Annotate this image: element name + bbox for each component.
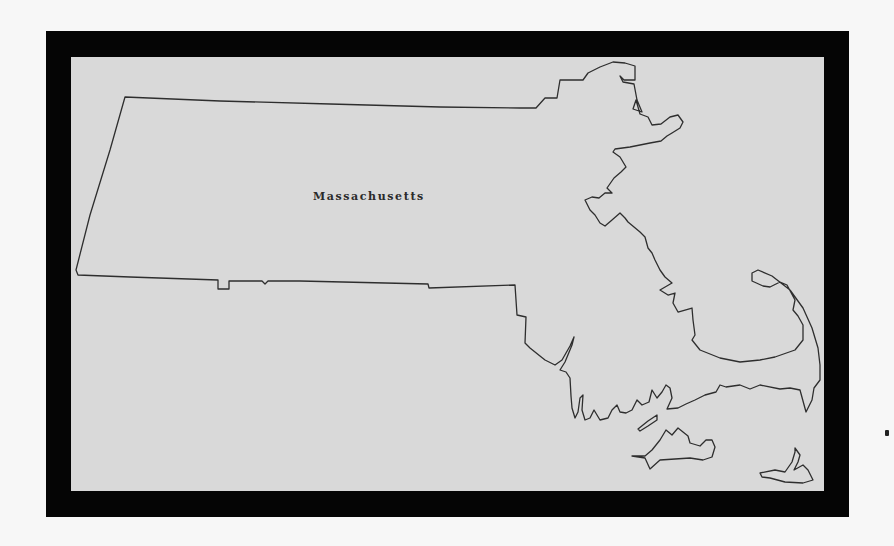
scan-artifact (885, 430, 889, 436)
mainland-outline (76, 62, 820, 420)
elizabeth-islands-outline (638, 415, 657, 431)
massachusetts-map (0, 0, 894, 546)
state-label: Massachusetts (313, 190, 425, 203)
nantucket-outline (760, 448, 813, 483)
marthas-vineyard-outline (632, 428, 715, 469)
